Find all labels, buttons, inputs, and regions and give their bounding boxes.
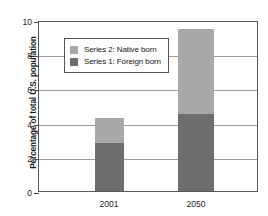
gridline	[39, 125, 257, 126]
legend-label: Series 1: Foreign born	[84, 57, 161, 66]
gridline	[39, 159, 257, 160]
y-tick-label: 2	[27, 154, 32, 164]
legend-label: Series 2: Native born	[84, 45, 157, 54]
y-tick-label: 0	[27, 188, 32, 198]
legend-swatch-icon	[70, 58, 78, 66]
bar-segment	[95, 118, 124, 143]
chart-legend: Series 2: Native bornSeries 1: Foreign b…	[64, 38, 169, 73]
y-tick-mark	[34, 22, 39, 23]
y-tick-mark	[34, 125, 39, 126]
y-tick-label: 4	[27, 120, 32, 130]
legend-item: Series 2: Native born	[70, 44, 161, 55]
bar-segment	[178, 29, 214, 115]
y-tick-label: 6	[27, 85, 32, 95]
y-tick-label: 8	[27, 51, 32, 61]
y-tick-mark	[34, 159, 39, 160]
y-tick-mark	[34, 193, 39, 194]
gridline	[39, 90, 257, 91]
plot-area: 0246810 20012050 Series 2: Native bornSe…	[38, 21, 258, 192]
y-tick-mark	[34, 56, 39, 57]
legend-item: Series 1: Foreign born	[70, 56, 161, 67]
stacked-bar-chart: Percentage of total U.S. population 0246…	[0, 0, 268, 216]
bar-segment	[178, 114, 214, 191]
legend-swatch-icon	[70, 46, 78, 54]
bar-segment	[95, 143, 124, 191]
x-tick-label: 2050	[166, 199, 226, 209]
y-tick-label: 10	[23, 17, 32, 27]
x-tick-label: 2001	[79, 199, 139, 209]
bar-2050	[178, 29, 214, 191]
y-tick-mark	[34, 90, 39, 91]
bar-2001	[95, 118, 124, 191]
